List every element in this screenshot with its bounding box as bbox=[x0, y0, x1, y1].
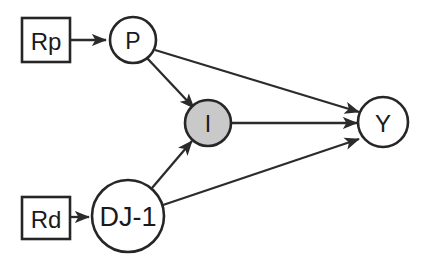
node-i[interactable]: I bbox=[185, 100, 231, 146]
diagram-canvas: RpPIRdDJ-1Y bbox=[0, 0, 431, 271]
edge-dj1-to-i bbox=[152, 141, 192, 188]
node-p-label: P bbox=[125, 28, 140, 54]
node-dj1[interactable]: DJ-1 bbox=[92, 180, 164, 252]
node-i-label: I bbox=[205, 111, 211, 137]
pathway-diagram: RpPIRdDJ-1Y bbox=[0, 0, 431, 271]
edge-p-to-i bbox=[147, 58, 194, 108]
node-rd-label: Rd bbox=[31, 206, 62, 233]
node-y-label: Y bbox=[375, 110, 391, 137]
node-rd[interactable]: Rd bbox=[22, 197, 70, 239]
node-rp[interactable]: Rp bbox=[22, 18, 70, 62]
node-rp-label: Rp bbox=[31, 28, 62, 55]
edge-p-to-y bbox=[155, 50, 359, 112]
edge-dj1-to-y bbox=[163, 139, 359, 205]
node-p[interactable]: P bbox=[110, 17, 156, 63]
node-dj1-label: DJ-1 bbox=[99, 202, 156, 232]
node-y[interactable]: Y bbox=[358, 97, 408, 147]
